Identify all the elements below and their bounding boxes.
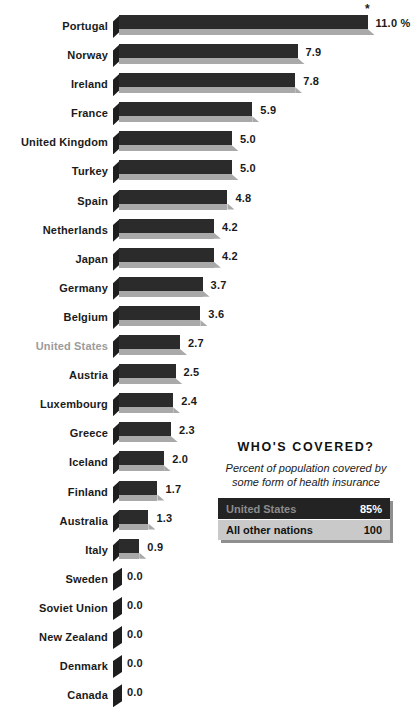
bar-row: Japan4.2 (0, 247, 420, 276)
bar-category-label: Canada (0, 689, 108, 701)
bar-front-face (119, 174, 232, 180)
bar-row: Luxembourg2.4 (0, 392, 420, 421)
bar-left-face (113, 597, 122, 620)
inset-row: United States85% (218, 498, 390, 519)
bar-right-bevel (139, 553, 146, 559)
bar-value-label: 2.4 (181, 395, 197, 407)
bar-row: Germany3.7 (0, 276, 420, 305)
bar-category-label: Turkey (0, 165, 108, 177)
bar-row: Netherlands4.2 (0, 218, 420, 247)
bar-top-face (119, 364, 176, 378)
bar-top-face (119, 73, 295, 87)
bar-category-label: Japan (0, 253, 108, 265)
bar-top-face (119, 190, 227, 204)
inset-row-value: 85% (360, 503, 382, 515)
bar-right-bevel (180, 349, 187, 355)
inset-row-label: United States (226, 503, 296, 515)
bar-category-label: Greece (0, 427, 108, 439)
bar-front-face (119, 524, 148, 530)
bar-value-label: 0.0 (127, 628, 143, 640)
bar-category-label: Spain (0, 195, 108, 207)
bar-value-label: 3.6 (208, 308, 224, 320)
bar-left-face (113, 568, 122, 591)
bar-front-face (119, 407, 173, 413)
bar-category-label: United Kingdom (0, 136, 108, 148)
bar-top-face (119, 160, 232, 174)
bar-category-label: Belgium (0, 311, 108, 323)
bar-row: Austria2.5 (0, 363, 420, 392)
bar-category-label: United States (0, 340, 108, 352)
bar-top-face (119, 510, 148, 524)
bar-right-bevel (214, 262, 221, 268)
bar-row: Norway7.9 (0, 43, 420, 72)
bar-front-face (119, 349, 180, 355)
bar-right-bevel (232, 174, 239, 180)
bar-top-face (119, 248, 214, 262)
bar-category-label: France (0, 107, 108, 119)
bar-top-face (119, 219, 214, 233)
bar-value-label: 0.0 (127, 570, 143, 582)
bar-value-label: 1.3 (156, 512, 172, 524)
bar-value-label: 4.8 (235, 192, 251, 204)
bar-value-label: 0.0 (127, 599, 143, 611)
bar-value-label: 7.8 (303, 75, 319, 87)
bar-value-label: 7.9 (306, 46, 322, 58)
inset-title: WHO'S COVERED? (218, 440, 394, 454)
bar-rows-container: Portugal11.0 %Norway7.9Ireland7.8France5… (0, 14, 420, 711)
bar-top-face (119, 422, 171, 436)
bar-top-face (119, 451, 164, 465)
bar-category-label: Germany (0, 282, 108, 294)
bar-top-face (119, 277, 203, 291)
bar-front-face (119, 465, 164, 471)
bar-front-face (119, 495, 157, 501)
bar-left-face (113, 655, 122, 678)
bar-top-face (119, 539, 139, 553)
bar-value-label: 2.5 (184, 366, 200, 378)
bar-row: Ireland7.8 (0, 72, 420, 101)
bar-category-label: Denmark (0, 660, 108, 672)
bar-front-face (119, 436, 171, 442)
bar-row: Sweden0.0 (0, 567, 420, 596)
bar-right-bevel (298, 58, 305, 64)
bar-front-face (119, 378, 176, 384)
bar-right-bevel (148, 524, 155, 530)
bar-front-face (119, 233, 214, 239)
bar-top-face (119, 102, 252, 116)
bar-right-bevel (227, 204, 234, 210)
bar-top-face (119, 335, 180, 349)
bar-right-bevel (173, 407, 180, 413)
inset-table: United States85%All other nations100 (218, 498, 390, 540)
bar-value-label: 11.0 % (376, 17, 411, 29)
bar-top-face (119, 131, 232, 145)
bar-row: Italy0.9 (0, 538, 420, 567)
bar-category-label: Australia (0, 515, 108, 527)
bar-value-label: 5.0 (240, 133, 256, 145)
bar-category-label: Luxembourg (0, 398, 108, 410)
bar-left-face (113, 626, 122, 649)
bar-value-label: 1.7 (165, 483, 181, 495)
bar-row: Denmark0.0 (0, 654, 420, 683)
bar-top-face (119, 393, 173, 407)
bar-category-label: Austria (0, 369, 108, 381)
bar-front-face (119, 87, 295, 93)
bar-row: Belgium3.6 (0, 305, 420, 334)
bar-value-label: 5.9 (260, 104, 276, 116)
bar-right-bevel (176, 378, 183, 384)
bar-front-face (119, 145, 232, 151)
bar-right-bevel (252, 116, 259, 122)
bar-category-label: Finland (0, 486, 108, 498)
bar-row: United States2.7 (0, 334, 420, 363)
bar-right-bevel (157, 495, 164, 501)
bar-row: Portugal11.0 % (0, 14, 420, 43)
bar-right-bevel (171, 436, 178, 442)
bar-category-label: Ireland (0, 78, 108, 90)
inset-subtitle: Percent of population covered by some fo… (218, 461, 394, 489)
bar-right-bevel (368, 29, 375, 35)
bar-left-face (113, 684, 122, 707)
inset-panel: WHO'S COVERED? Percent of population cov… (218, 440, 394, 540)
bar-category-label: Norway (0, 49, 108, 61)
bar-value-label: 0.9 (147, 541, 163, 553)
asterisk-annotation: * (365, 4, 370, 14)
bar-right-bevel (214, 233, 221, 239)
